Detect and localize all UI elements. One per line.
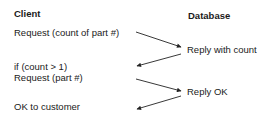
arrow-reply-ok-to-client xyxy=(137,96,181,109)
arrows-layer xyxy=(0,0,276,121)
arrow-request-count-to-database xyxy=(136,32,181,47)
arrow-request-part-to-database xyxy=(136,79,181,91)
arrow-reply-count-to-client xyxy=(137,54,181,66)
